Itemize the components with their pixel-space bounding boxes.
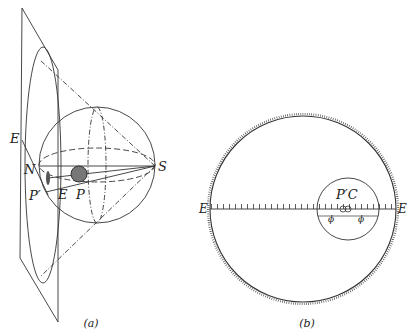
- label-E-left: E: [198, 202, 208, 216]
- label-E-bottom: E: [57, 187, 68, 202]
- caption-b: (b): [299, 317, 315, 330]
- label-E-top: E: [9, 131, 20, 146]
- label-P-prime-C: P′C: [335, 187, 358, 202]
- sphere-meridian: [88, 107, 106, 223]
- caption-a: (a): [83, 317, 98, 330]
- label-E-right: E: [397, 202, 407, 216]
- stereographic-projection-figure: E N S P′ E P (a) E E P′C ϕ ϕ (b): [0, 0, 416, 336]
- point-P-marker: [71, 166, 87, 182]
- label-P: P: [75, 187, 85, 202]
- sphere: [39, 107, 155, 223]
- point-P-prime-marker: [46, 171, 50, 185]
- figure-b-drawing: [208, 114, 398, 304]
- figure-a-drawing: [20, 8, 155, 322]
- label-phi-right: ϕ: [358, 214, 364, 224]
- label-N: N: [23, 162, 36, 177]
- label-S: S: [158, 159, 167, 174]
- label-phi-left: ϕ: [328, 214, 334, 224]
- label-P-prime: P′: [28, 188, 41, 203]
